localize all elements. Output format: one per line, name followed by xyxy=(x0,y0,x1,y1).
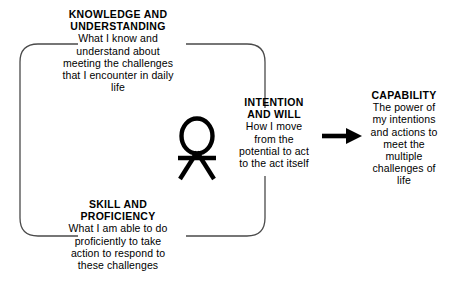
knowledge-heading: KNOWLEDGE AND UNDERSTANDING xyxy=(44,8,192,32)
intention-heading: INTENTION AND WILL xyxy=(228,96,320,120)
figure-head xyxy=(182,119,213,154)
skill-body: What I am able to do proficiently to tak… xyxy=(44,222,192,271)
knowledge-text-block: KNOWLEDGE AND UNDERSTANDING What I know … xyxy=(44,8,192,93)
skill-text-block: SKILL AND PROFICIENCY What I am able to … xyxy=(44,198,192,271)
capability-text-block: CAPABILITY The power of my intentions an… xyxy=(355,89,453,186)
skill-heading: SKILL AND PROFICIENCY xyxy=(44,198,192,222)
knowledge-body: What I know and understand about meeting… xyxy=(44,32,192,93)
diagram-canvas: KNOWLEDGE AND UNDERSTANDING What I know … xyxy=(0,0,457,283)
intention-text-block: INTENTION AND WILL How I move from the p… xyxy=(228,96,320,169)
capability-body: The power of my intentions and actions t… xyxy=(355,101,453,186)
capability-heading: CAPABILITY xyxy=(355,89,453,101)
intention-body: How I move from the potential to act to … xyxy=(228,120,320,169)
